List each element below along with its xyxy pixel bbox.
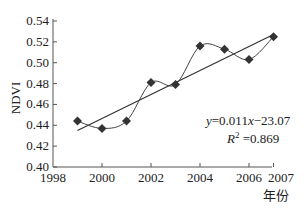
diamond-marker xyxy=(73,117,82,126)
r-squared-label: R2 =0.869 xyxy=(226,130,279,146)
x-tick-label: 2006 xyxy=(236,170,263,185)
y-tick-label: 0.44 xyxy=(26,117,49,132)
x-axis-ticks: 199820002002200420062007 xyxy=(40,163,295,185)
x-tick-label: 2002 xyxy=(138,170,164,185)
diamond-marker xyxy=(245,55,254,64)
diamond-marker xyxy=(220,45,229,54)
ndvi-chart: 0.400.420.440.460.480.500.520.54 1998200… xyxy=(0,0,304,211)
x-tick-label: 1998 xyxy=(40,170,66,185)
y-axis-title: NDVI xyxy=(8,82,23,115)
y-tick-label: 0.54 xyxy=(26,13,49,28)
x-tick-label: 2007 xyxy=(268,170,295,185)
x-tick-label: 2004 xyxy=(187,170,214,185)
regression-equation: y=0.011x−23.07 xyxy=(204,113,291,128)
y-axis-ticks: 0.400.420.440.460.480.500.520.54 xyxy=(26,13,57,174)
y-tick-label: 0.52 xyxy=(26,34,49,49)
diamond-marker xyxy=(98,124,107,133)
y-tick-label: 0.46 xyxy=(26,96,49,111)
y-tick-label: 0.50 xyxy=(26,55,49,70)
y-tick-label: 0.48 xyxy=(26,76,49,91)
x-axis-title: 年份 xyxy=(263,188,289,203)
y-tick-label: 0.42 xyxy=(26,138,49,153)
x-tick-label: 2000 xyxy=(89,170,115,185)
